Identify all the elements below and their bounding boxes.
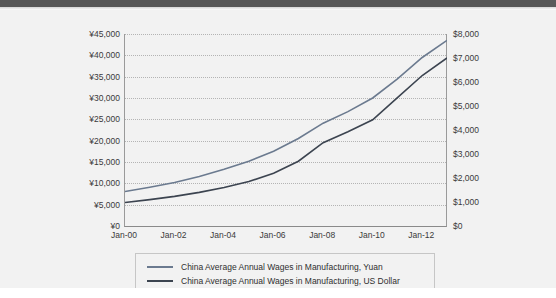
legend-line-swatch-usd xyxy=(147,280,173,282)
top-decorative-band xyxy=(0,0,556,7)
line-series-usd xyxy=(125,58,447,202)
legend-label-yuan: China Average Annual Wages in Manufactur… xyxy=(181,262,383,272)
left-axis-tick-label: ¥35,000 xyxy=(60,73,120,82)
left-axis-tick-label: ¥40,000 xyxy=(60,51,120,60)
line-series-yuan xyxy=(125,40,447,191)
right-axis-tick-label: $6,000 xyxy=(453,78,513,87)
left-axis-tick-label: ¥10,000 xyxy=(60,179,120,188)
right-axis-tick-label: $0 xyxy=(453,222,513,231)
right-axis-tick-label: $4,000 xyxy=(453,126,513,135)
x-axis-tick-label: Jan-12 xyxy=(391,231,451,240)
legend-label-usd: China Average Annual Wages in Manufactur… xyxy=(181,276,400,286)
legend-item-yuan[interactable]: China Average Annual Wages in Manufactur… xyxy=(147,260,383,274)
legend-item-usd[interactable]: China Average Annual Wages in Manufactur… xyxy=(147,274,400,288)
right-axis-tick-label: $1,000 xyxy=(453,198,513,207)
left-axis-tick-label: ¥45,000 xyxy=(60,30,120,39)
left-axis-tick-label: ¥30,000 xyxy=(60,94,120,103)
legend-line-swatch-yuan xyxy=(147,266,173,268)
left-axis-tick-label: ¥15,000 xyxy=(60,158,120,167)
right-axis-tick-label: $5,000 xyxy=(453,102,513,111)
right-axis-tick-label: $8,000 xyxy=(453,30,513,39)
right-axis-tick-label: $3,000 xyxy=(453,150,513,159)
bottom-white-margin xyxy=(0,288,556,298)
series-lines xyxy=(125,34,447,226)
left-axis-tick-label: ¥20,000 xyxy=(60,137,120,146)
left-axis-tick-label: ¥25,000 xyxy=(60,115,120,124)
right-axis-tick-label: $2,000 xyxy=(453,174,513,183)
right-axis-tick-label: $7,000 xyxy=(453,54,513,63)
chart-figure: ¥0¥5,000¥10,000¥15,000¥20,000¥25,000¥30,… xyxy=(0,10,556,288)
plot-area xyxy=(124,34,447,227)
chart-legend: China Average Annual Wages in Manufactur… xyxy=(135,253,435,289)
left-axis-tick-label: ¥5,000 xyxy=(60,201,120,210)
